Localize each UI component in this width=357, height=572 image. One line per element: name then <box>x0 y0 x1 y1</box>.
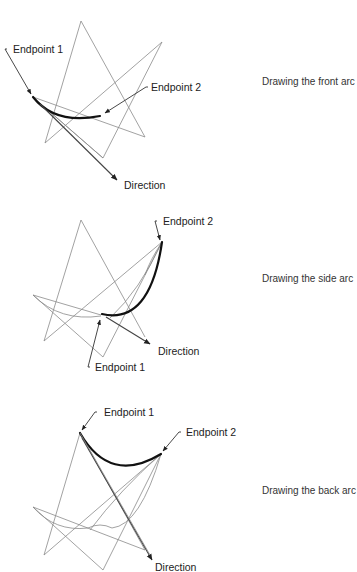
endpoint2-label: Endpoint 2 <box>163 215 213 227</box>
endpoint1-leader <box>88 320 100 367</box>
endpoint2-leader <box>155 221 160 240</box>
endpoint2-label: Endpoint 2 <box>186 426 236 438</box>
figure-caption: Drawing the back arc <box>262 485 356 496</box>
figure-caption: Drawing the side arc <box>262 273 353 284</box>
endpoint2-leader <box>105 87 148 113</box>
figure-side-arc: Endpoint 2 Endpoint 1 Direction Drawing … <box>0 200 357 380</box>
figure-front-arc: Endpoint 1 Endpoint 2 Direction Drawing … <box>0 0 357 200</box>
direction-label: Direction <box>155 561 197 572</box>
direction-arrow <box>106 317 150 344</box>
endpoint1-label: Endpoint 1 <box>104 406 154 418</box>
back-arc-curve <box>80 433 161 466</box>
endpoint1-leader <box>82 412 97 430</box>
figure-caption: Drawing the front arc <box>262 76 355 87</box>
direction-label: Direction <box>158 345 200 357</box>
direction-arrow <box>40 104 117 180</box>
endpoint1-label: Endpoint 1 <box>13 43 63 55</box>
direction-label: Direction <box>124 179 166 191</box>
side-arc-curve <box>102 242 162 315</box>
chair-frame-wireframe <box>33 220 162 357</box>
endpoint1-label: Endpoint 1 <box>95 361 145 373</box>
endpoint2-label: Endpoint 2 <box>151 81 201 93</box>
endpoint2-leader <box>163 432 181 451</box>
endpoint1-leader <box>5 49 31 94</box>
figure-back-arc: Endpoint 1 Endpoint 2 Direction Drawing … <box>0 380 357 572</box>
